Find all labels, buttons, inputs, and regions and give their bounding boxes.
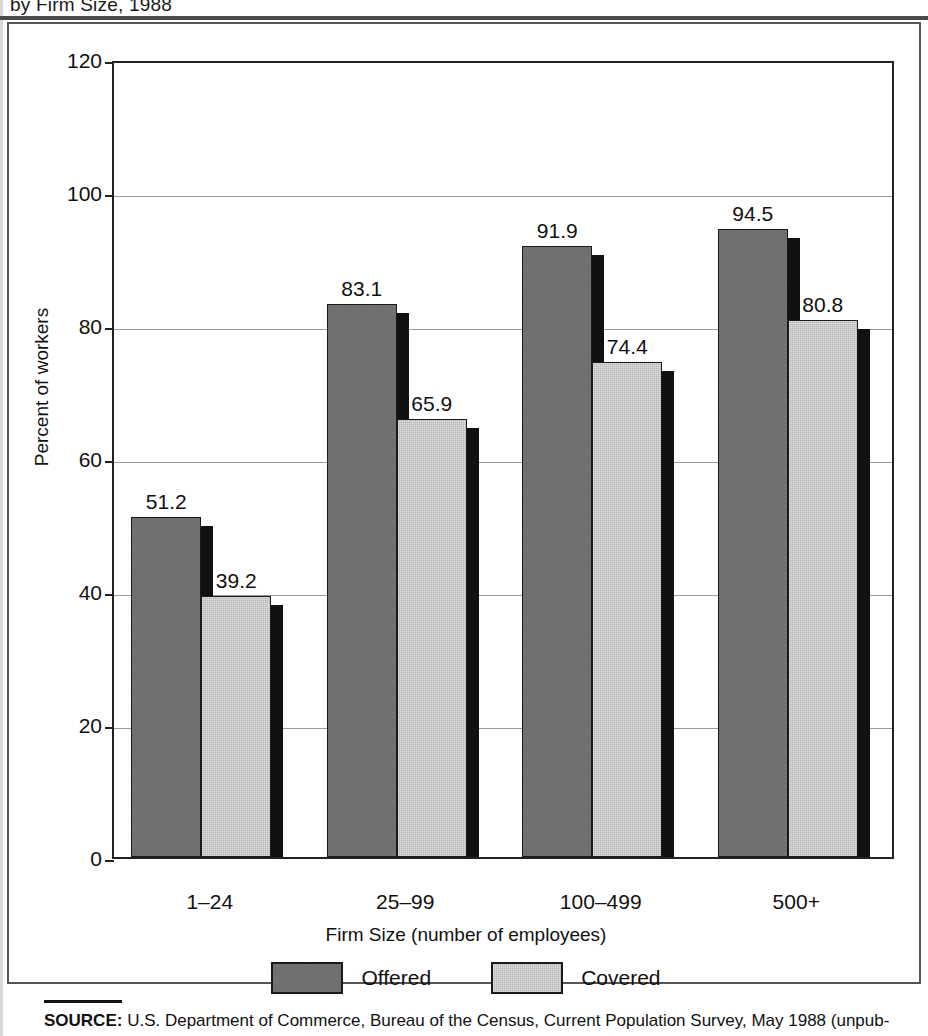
y-axis-tick xyxy=(105,62,114,64)
legend-label: Offered xyxy=(361,966,431,990)
y-axis-tick xyxy=(105,328,114,330)
bar-value-label: 94.5 xyxy=(693,202,813,226)
bar-rect xyxy=(788,320,858,857)
page-edge-artifact xyxy=(0,0,3,1036)
bar-value-label: 39.2 xyxy=(176,569,296,593)
y-axis-tick-label: 0 xyxy=(90,847,102,871)
y-axis-tick xyxy=(105,461,114,463)
bar-3d-shadow xyxy=(466,428,479,857)
bar-value-label: 51.2 xyxy=(106,490,226,514)
y-axis-tick xyxy=(105,594,114,596)
bar-covered-1[interactable] xyxy=(397,419,467,857)
plot-area: 51.239.283.165.991.974.494.580.8 xyxy=(112,61,894,859)
bar-value-label: 65.9 xyxy=(372,392,492,416)
y-axis-tick-label: 80 xyxy=(79,315,102,339)
chart-frame: Percent of workers 020406080100120 51.23… xyxy=(7,22,921,984)
title-divider-rule xyxy=(0,16,928,20)
bar-value-label: 80.8 xyxy=(763,293,883,317)
bar-value-label: 83.1 xyxy=(302,277,422,301)
y-axis-tick-label: 20 xyxy=(79,714,102,738)
bar-covered-0[interactable] xyxy=(201,596,271,857)
bar-offered-0[interactable] xyxy=(131,517,201,857)
source-label: SOURCE: xyxy=(44,1011,122,1030)
legend-item-offered[interactable]: Offered xyxy=(271,962,431,994)
x-axis-category-label: 500+ xyxy=(696,890,896,914)
bar-rect xyxy=(327,304,397,857)
bar-value-label: 91.9 xyxy=(497,219,617,243)
bar-3d-shadow xyxy=(661,371,674,857)
x-axis-title: Firm Size (number of employees) xyxy=(9,924,923,946)
source-note: SOURCE: U.S. Department of Commerce, Bur… xyxy=(44,1011,889,1031)
chart-legend: OfferedCovered xyxy=(9,962,923,994)
bar-offered-1[interactable] xyxy=(327,304,397,857)
bar-3d-shadow xyxy=(270,605,283,857)
figure-title: by Firm Size, 1988 xyxy=(10,0,172,16)
bar-rect xyxy=(131,517,201,857)
bar-rect xyxy=(718,229,788,857)
x-axis-category-label: 25–99 xyxy=(305,890,505,914)
legend-label: Covered xyxy=(581,966,660,990)
y-axis-tick xyxy=(105,860,114,862)
gridline xyxy=(114,196,892,197)
x-axis-category-label: 100–499 xyxy=(501,890,701,914)
y-axis-tick xyxy=(105,727,114,729)
source-divider-rule xyxy=(44,1000,122,1003)
y-axis-tick xyxy=(105,195,114,197)
bar-value-label: 74.4 xyxy=(567,335,687,359)
y-axis-tick-label: 60 xyxy=(79,448,102,472)
x-axis-category-label: 1–24 xyxy=(110,890,310,914)
y-axis-tick-label: 100 xyxy=(67,182,102,206)
legend-swatch-offered xyxy=(271,962,343,994)
bar-rect xyxy=(201,596,271,857)
bar-rect xyxy=(592,362,662,857)
bar-3d-shadow xyxy=(857,329,870,857)
bar-covered-2[interactable] xyxy=(592,362,662,857)
y-axis-tick-label: 40 xyxy=(79,581,102,605)
bar-rect xyxy=(397,419,467,857)
source-body: U.S. Department of Commerce, Bureau of t… xyxy=(122,1011,889,1030)
legend-item-covered[interactable]: Covered xyxy=(491,962,660,994)
legend-swatch-covered xyxy=(491,962,563,994)
y-axis-tick-labels: 020406080100120 xyxy=(42,61,102,859)
bar-offered-3[interactable] xyxy=(718,229,788,857)
bar-covered-3[interactable] xyxy=(788,320,858,857)
y-axis-tick-label: 120 xyxy=(67,49,102,73)
